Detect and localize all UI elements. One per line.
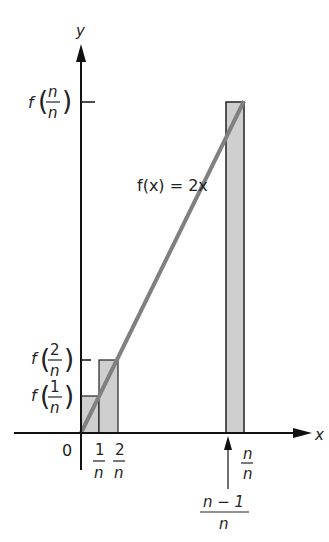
origin-label: 0 [62,441,72,460]
svg-text:2: 2 [50,341,60,359]
svg-text:f: f [28,93,36,112]
svg-text:n: n [94,464,104,482]
rectangle-2 [99,360,118,433]
svg-text:n: n [114,464,124,482]
y-axis-label: y [75,22,86,40]
svg-text:f: f [31,386,39,405]
svg-text:n: n [243,445,253,463]
function-line [81,101,244,433]
svg-text:n: n [48,104,58,122]
svg-text:): ) [62,86,72,116]
x-label-2-over-n: 2 n [113,441,125,482]
y-label-f-1-over-n: f ( 1 n ) [31,378,74,417]
svg-text:f: f [31,349,39,368]
pointer-label-n-minus-1-over-n: n − 1 n [200,493,249,533]
function-label: f(x) = 2x [137,176,208,195]
svg-text:n: n [243,465,253,483]
svg-text:n − 1: n − 1 [203,493,244,511]
svg-text:n: n [48,83,58,101]
riemann-sum-diagram: y x 0 f(x) = 2x f ( n n ) f ( 2 n ) f ( … [0,0,329,542]
svg-text:): ) [64,381,74,411]
x-axis-arrow-icon [293,428,312,438]
pointer-arrow-head-icon [224,436,232,450]
svg-text:(: ( [38,86,48,116]
svg-text:n: n [50,399,60,417]
y-label-f-n-over-n: f ( n n ) [28,83,72,122]
x-axis-label: x [314,426,324,444]
svg-text:2: 2 [115,441,125,459]
rectangle-n [226,102,244,433]
svg-text:(: ( [40,381,50,411]
y-axis-arrow-icon [76,44,86,62]
x-label-1-over-n: 1 n [93,441,105,482]
svg-text:1: 1 [95,441,105,459]
x-label-n-over-n: n n [241,445,253,483]
svg-text:1: 1 [50,378,60,396]
svg-text:n: n [219,515,229,533]
svg-text:(: ( [40,344,50,374]
svg-text:): ) [64,344,74,374]
y-label-f-2-over-n: f ( 2 n ) [31,341,74,380]
